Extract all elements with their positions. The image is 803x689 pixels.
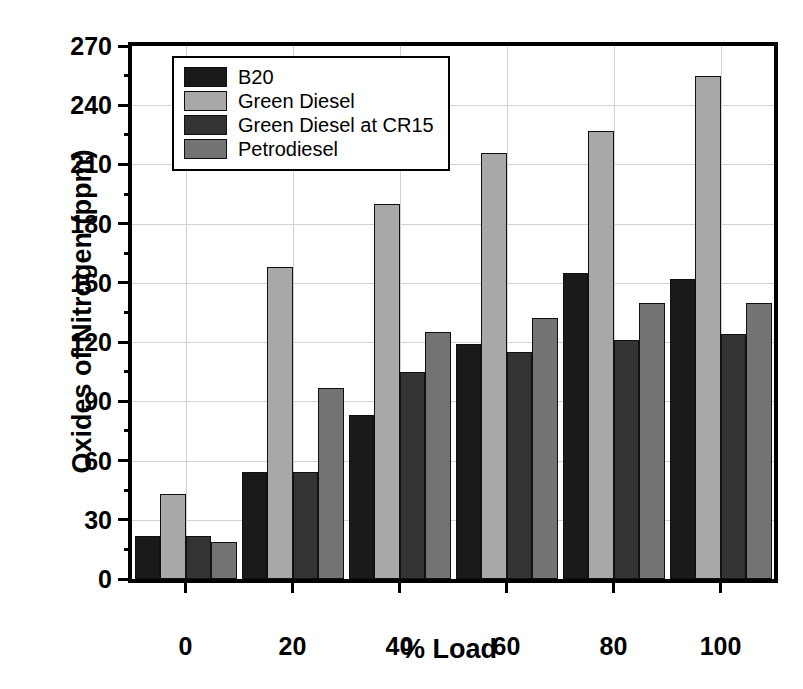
y-tick-minor: [124, 370, 132, 373]
x-tick: [612, 579, 615, 593]
legend-item[interactable]: Green Diesel: [184, 89, 434, 113]
y-tick-label: 120: [70, 328, 112, 357]
y-tick-label: 180: [70, 209, 112, 238]
y-tick-major: [118, 578, 132, 581]
legend-swatch-icon: [184, 115, 227, 135]
y-tick-minor: [124, 548, 132, 551]
bar: [186, 536, 212, 579]
legend-swatch-icon: [184, 67, 227, 87]
y-tick-label: 90: [84, 387, 112, 416]
bar: [746, 303, 772, 579]
bar: [563, 273, 589, 579]
bar: [160, 494, 186, 579]
x-tick-label: 100: [700, 632, 742, 661]
y-tick-minor: [124, 252, 132, 255]
chart-figure: Oxides of Nitrogen (ppm) % Load 03060901…: [0, 0, 803, 689]
chart-legend: B20Green DieselGreen Diesel at CR15Petro…: [172, 56, 450, 171]
y-tick-label: 210: [70, 150, 112, 179]
y-tick-label: 30: [84, 505, 112, 534]
legend-label: Green Diesel: [238, 91, 355, 111]
bar: [211, 542, 237, 580]
y-tick-minor: [124, 489, 132, 492]
legend-label: Petrodiesel: [238, 139, 338, 159]
legend-item[interactable]: Petrodiesel: [184, 137, 434, 161]
legend-label: B20: [238, 67, 274, 87]
bar: [425, 332, 451, 579]
y-tick-label: 270: [70, 32, 112, 61]
legend-swatch-icon: [184, 139, 227, 159]
bar: [135, 536, 161, 579]
y-tick-major: [118, 518, 132, 521]
x-tick: [291, 579, 294, 593]
bar: [374, 204, 400, 579]
bar: [267, 267, 293, 579]
bar: [481, 153, 507, 579]
legend-label: Green Diesel at CR15: [238, 115, 434, 135]
bar: [242, 472, 268, 579]
bar: [293, 472, 319, 579]
y-tick-major: [118, 222, 132, 225]
x-tick-label: 20: [279, 632, 307, 661]
bar: [400, 372, 426, 579]
y-tick-minor: [124, 74, 132, 77]
y-tick-label: 150: [70, 268, 112, 297]
x-tick-label: 60: [493, 632, 521, 661]
x-tick-label: 80: [600, 632, 628, 661]
y-tick-label: 0: [98, 565, 112, 594]
bar: [721, 334, 747, 579]
y-tick-minor: [124, 311, 132, 314]
y-tick-label: 240: [70, 91, 112, 120]
y-tick-minor: [124, 133, 132, 136]
x-tick: [505, 579, 508, 593]
plot-area: 0306090120150180210240270020406080100 B2…: [128, 42, 778, 583]
x-tick: [719, 579, 722, 593]
x-axis-title: % Load: [128, 634, 770, 665]
bar: [588, 131, 614, 579]
bar: [614, 340, 640, 579]
legend-item[interactable]: Green Diesel at CR15: [184, 113, 434, 137]
bar: [349, 415, 375, 579]
y-tick-major: [118, 163, 132, 166]
y-tick-major: [118, 104, 132, 107]
y-tick-label: 60: [84, 446, 112, 475]
bar: [318, 388, 344, 579]
bar: [507, 352, 533, 579]
bar: [639, 303, 665, 579]
y-tick-major: [118, 45, 132, 48]
legend-item[interactable]: B20: [184, 65, 434, 89]
x-tick: [184, 579, 187, 593]
y-tick-minor: [124, 193, 132, 196]
y-tick-major: [118, 341, 132, 344]
y-tick-major: [118, 281, 132, 284]
y-tick-major: [118, 459, 132, 462]
x-tick-label: 0: [179, 632, 193, 661]
bar: [532, 318, 558, 579]
y-tick-minor: [124, 429, 132, 432]
bar: [456, 344, 482, 579]
bar: [670, 279, 696, 579]
y-tick-major: [118, 400, 132, 403]
x-tick: [398, 579, 401, 593]
gridline-horizontal: [132, 224, 774, 225]
y-axis-title: Oxides of Nitrogen (ppm): [67, 62, 98, 562]
legend-swatch-icon: [184, 91, 227, 111]
x-tick-label: 40: [386, 632, 414, 661]
bar: [695, 76, 721, 579]
